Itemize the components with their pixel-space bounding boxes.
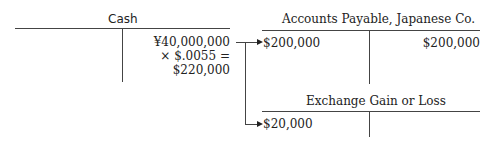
ap-t-vertical — [369, 30, 370, 84]
t-account-diagram: Cash ¥40,000,000 × $.0055 = $220,000 Acc… — [0, 0, 490, 146]
exchange-t-vertical — [369, 111, 370, 137]
ap-debit: $200,000 — [263, 36, 320, 50]
cash-credit-amount: $220,000 — [173, 63, 230, 77]
connector-top — [236, 42, 258, 43]
cash-credit-yen: ¥40,000,000 — [154, 35, 230, 49]
cash-title: Cash — [108, 12, 138, 26]
exchange-debit: $20,000 — [263, 117, 313, 131]
exchange-t-horizontal — [262, 111, 480, 112]
ap-title: Accounts Payable, Japanese Co. — [282, 12, 475, 26]
cash-t-vertical — [122, 28, 123, 82]
connector-vertical — [245, 42, 246, 124]
ap-t-horizontal — [262, 30, 480, 31]
exchange-title: Exchange Gain or Loss — [306, 94, 446, 108]
cash-credit-rate: × $.0055 = — [160, 49, 230, 63]
ap-credit: $200,000 — [423, 36, 480, 50]
